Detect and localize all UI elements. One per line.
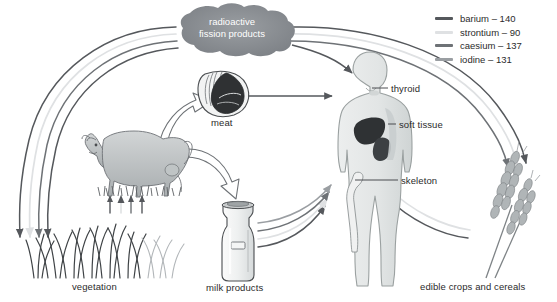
arrow-cow-to-milk [186,149,239,199]
milk-bottle-icon [222,201,254,281]
legend: barium – 140 strontium – 90 caesium – 13… [435,12,522,66]
cloud-label: radioactive fission products [186,16,278,39]
arrow-cloud-to-human-head [292,45,352,73]
arrow-group-milk-to-human [258,185,331,247]
node-label-milk-products: milk products [206,282,263,293]
legend-item-strontium: strontium – 90 [435,26,522,40]
legend-swatch-iodine [435,58,453,61]
node-label-meat: meat [211,117,233,128]
node-label-vegetation: vegetation [72,281,117,292]
legend-label-strontium: strontium – 90 [460,27,520,38]
legend-label-iodine: iodine – 131 [460,54,512,65]
body-label-skeleton: skeleton [401,175,437,186]
vegetation-grass-light [142,236,184,278]
cloud-label-line1: radioactive [186,16,278,28]
legend-item-iodine: iodine – 131 [435,53,522,67]
cow-icon [82,131,192,197]
body-label-thyroid: thyroid [391,83,420,94]
diagram-canvas: radioactive fission products meat vegeta… [0,0,557,302]
legend-item-barium: barium – 140 [435,12,522,26]
body-label-soft-tissue: soft tissue [399,119,443,130]
wheat-crops-icon [486,141,540,278]
legend-swatch-strontium [435,31,453,34]
legend-swatch-caesium [435,44,453,47]
arrow-group-cloud-to-vegetation [20,27,178,237]
legend-item-caesium: caesium – 137 [435,39,522,53]
vegetation-grass [26,224,146,278]
node-label-edible-crops: edible crops and cereals [420,281,525,292]
arrow-group-vegetation-uptake [110,196,142,213]
legend-swatch-barium [435,17,453,20]
legend-label-barium: barium – 140 [460,13,515,24]
meat-icon [198,71,249,117]
cloud-label-line2: fission products [186,28,278,40]
legend-label-caesium: caesium – 137 [460,40,522,51]
